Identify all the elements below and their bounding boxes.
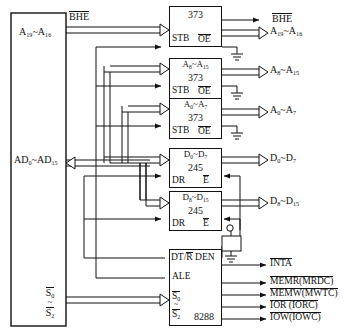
xcvr-245-2-chip-label: 245 <box>169 206 222 216</box>
chip-8288-ale-pin: ALE <box>172 272 190 282</box>
xcvr-245-1-dr-pin: DR <box>172 176 185 186</box>
latch-373-3-chip-label: 373 <box>169 113 222 123</box>
latch-373-1-oe-pin: OE <box>198 34 211 45</box>
control-output-iow: IOW(IOWC) <box>270 312 321 323</box>
bhe-input-text: BHE <box>69 11 89 22</box>
latch-373-1-stb-pin: STB <box>172 34 189 44</box>
chip-8288-s2-pin: S2 <box>172 309 180 320</box>
cpu-pin-a19-a16-label: A19~A16 <box>19 26 51 37</box>
latch-373-2-oe-pin: OE <box>198 86 211 97</box>
bus-output-a0-a7: A0~A7 <box>270 105 296 115</box>
latch-373-2-top-label: A8~A15 <box>169 60 222 69</box>
latch-373-3-top-label: A0~A7 <box>169 100 222 109</box>
latch-373-2-stb-pin: STB <box>172 86 189 96</box>
bus-output-bhe: BHE <box>272 13 292 24</box>
latch-373-3-stb-pin: STB <box>172 126 189 136</box>
cpu-pin-ad0-ad15-label: AD0~AD15 <box>14 154 58 165</box>
control-output-ior: IOR (IORC) <box>270 300 318 311</box>
cpu-pin-s-separator-label: ~ <box>48 297 53 307</box>
bus-output-a8-a15: A8~A15 <box>270 65 299 75</box>
latch-373-2-chip-label: 373 <box>169 73 222 83</box>
xcvr-245-2-dr-pin: DR <box>172 219 185 229</box>
latch-373-3-oe-pin: OE <box>198 126 211 137</box>
latch-373-1-chip-label: 373 <box>169 10 222 20</box>
bus-output-d8-d15: D8~D15 <box>270 196 299 206</box>
bus-output-a19-a16: A19~A16 <box>270 26 302 36</box>
bhe-input-label: BHE <box>69 11 89 22</box>
xcvr-245-1-top-label: D0~D7 <box>169 150 222 159</box>
cpu-pin-ad0-ad15: AD0~AD15 <box>14 155 58 165</box>
chip-8288-dtr-den-pins: DT/R DEN <box>171 252 215 263</box>
xcvr-245-1-chip-label: 245 <box>169 163 222 173</box>
xcvr-245-1-e-pin: E <box>203 175 209 186</box>
chip-8288-chip-label: 8288 <box>194 312 214 322</box>
cpu-pin-a19-a16: A19~A16 <box>19 27 51 37</box>
bus-output-d0-d7: D0~D7 <box>270 153 296 163</box>
chip-8288-s-separator: ~ <box>174 301 178 309</box>
cpu-pin-s-separator: ~ <box>38 298 62 307</box>
control-output-memw: MEMW(MWTC) <box>270 288 338 299</box>
xcvr-245-2-top-label: D8~D15 <box>169 193 222 202</box>
diagram-canvas: A19~A16 AD0~AD15 S0 ~ S2 BHE 373 STB OE … <box>0 0 346 336</box>
cpu-pin-s2: S2 <box>38 307 62 318</box>
control-output-memr: MEMR(MRDC) <box>270 276 333 287</box>
xcvr-245-2-e-pin: E <box>203 218 209 229</box>
control-output-inta: INTA <box>270 258 292 269</box>
cpu-pin-s2-label: S2 <box>46 307 55 318</box>
